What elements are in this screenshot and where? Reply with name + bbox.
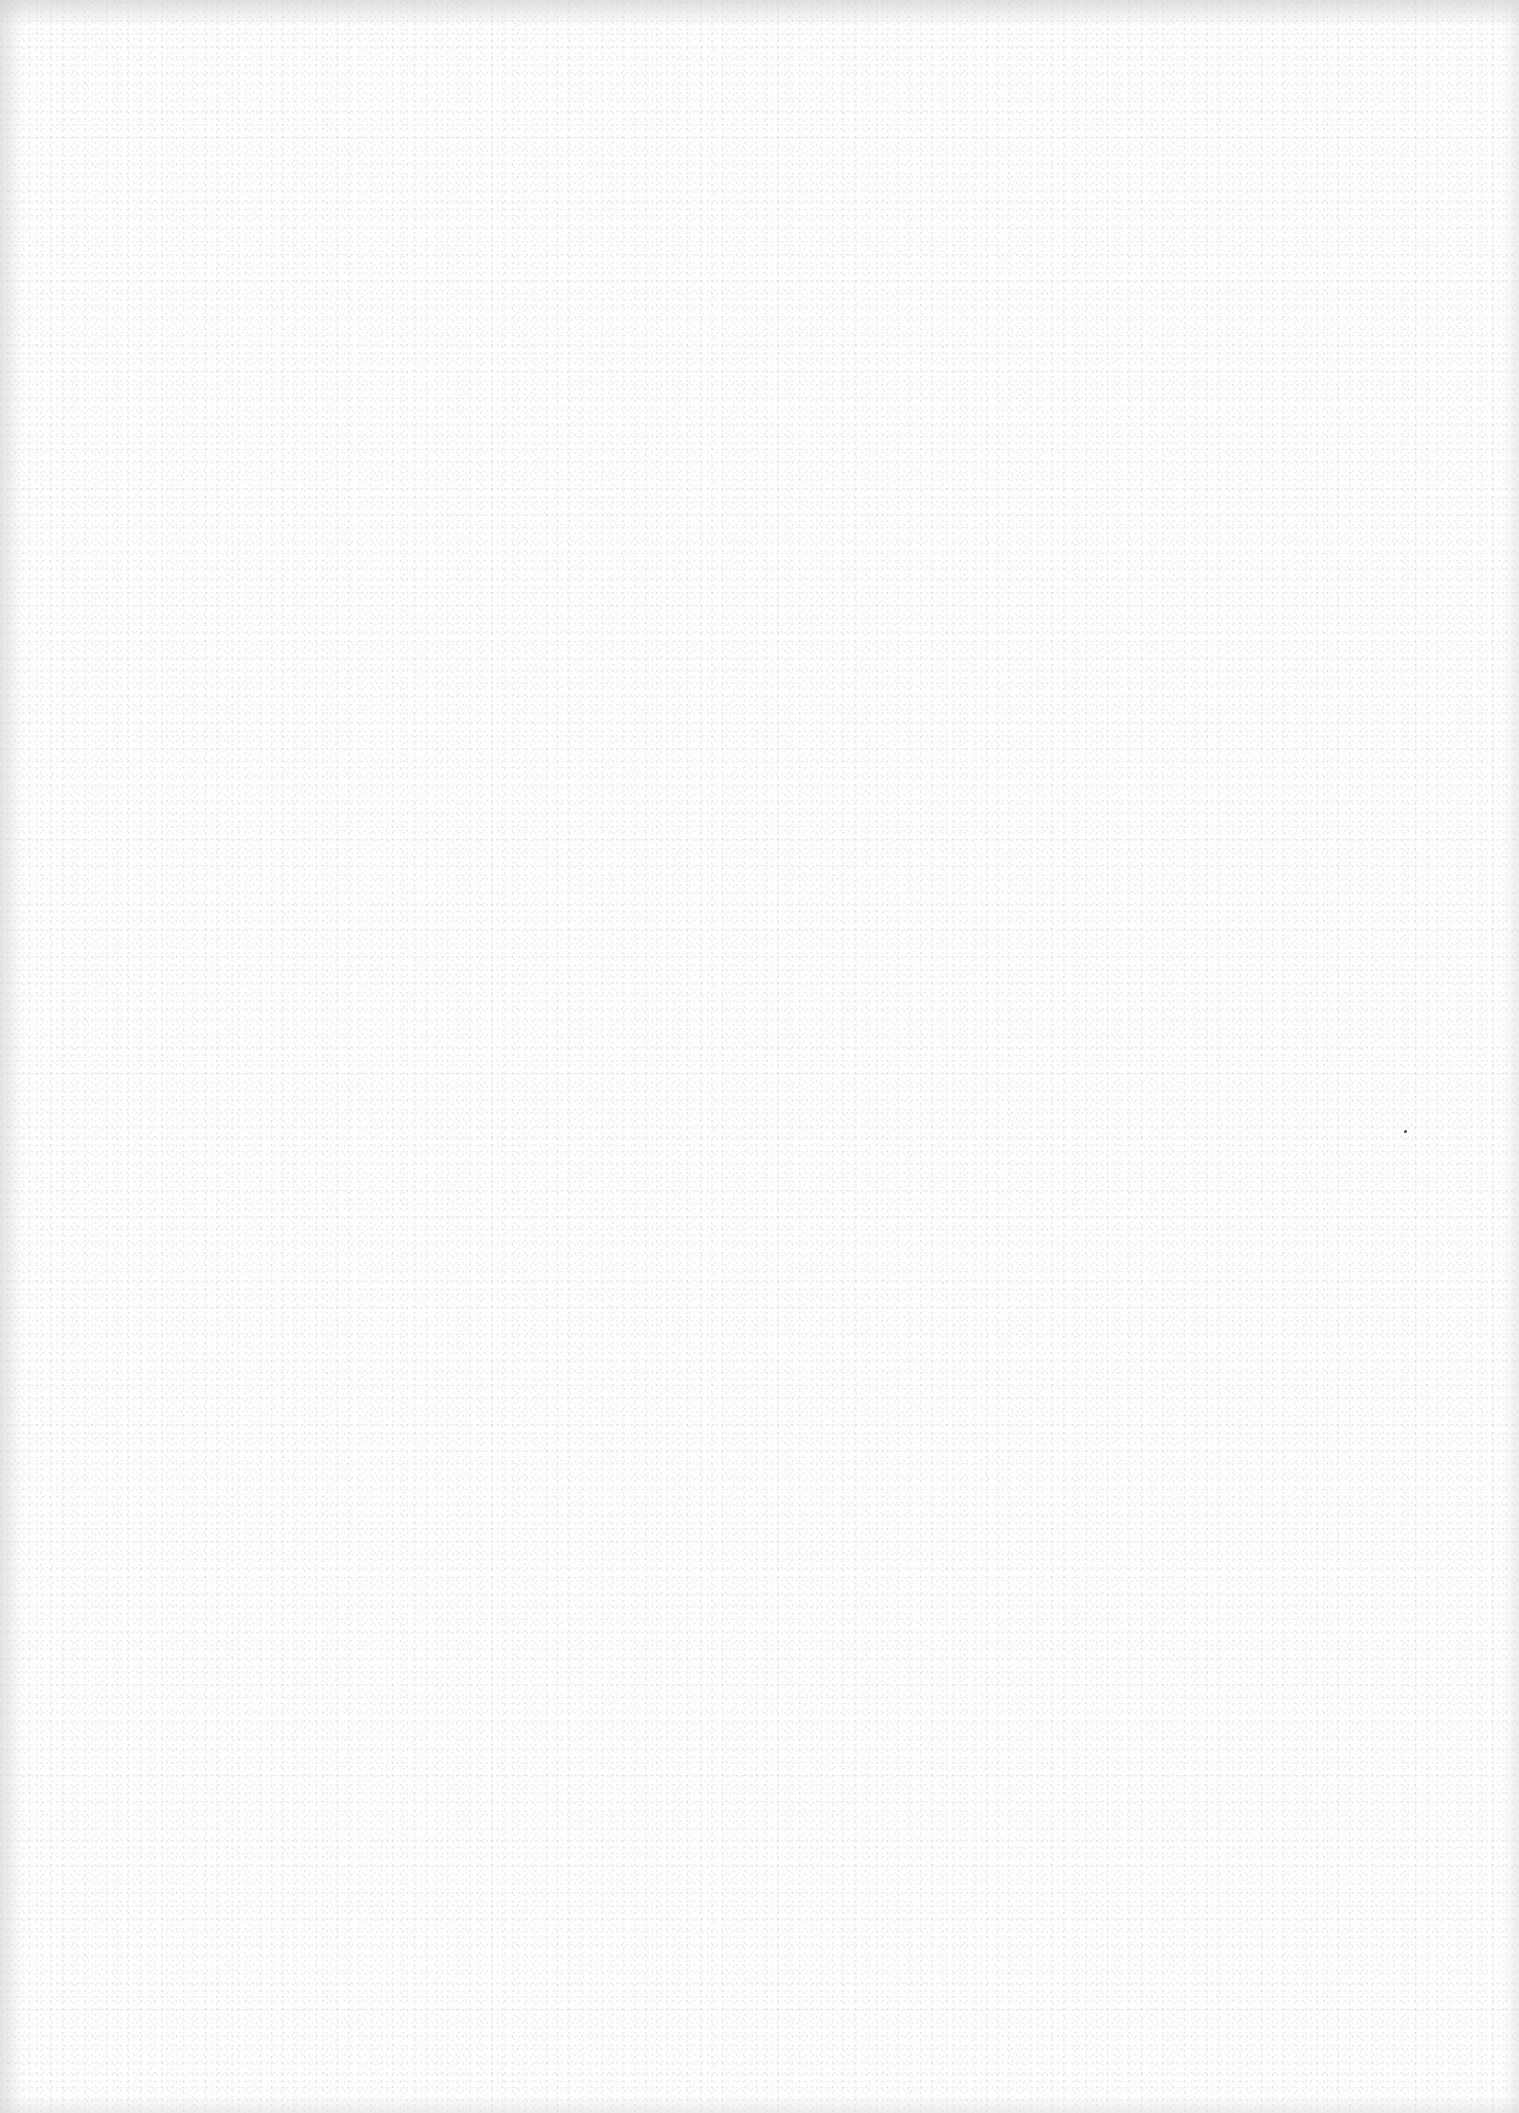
- scan-edge-shadow-top: [0, 0, 1519, 26]
- paper-grain-noise: [0, 0, 1519, 2113]
- dust-speck: [1404, 1130, 1407, 1133]
- scan-edge-shadow-bottom: [0, 2097, 1519, 2113]
- scan-edge-shadow-right: [1505, 0, 1519, 2113]
- scan-edge-shadow-left: [0, 0, 22, 2113]
- blank-scanned-page: [0, 0, 1519, 2113]
